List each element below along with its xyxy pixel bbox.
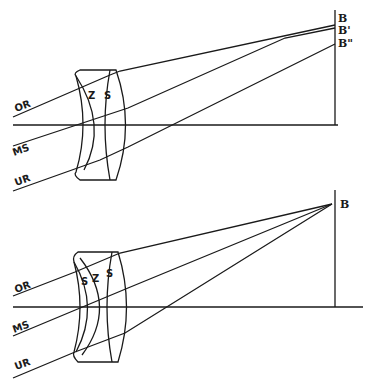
ray-ur (13, 204, 332, 378)
ray-or (13, 25, 335, 117)
label-or: OR (13, 279, 32, 295)
ray-ms (13, 28, 335, 146)
ray-or (13, 204, 332, 296)
label-ms: MS (11, 319, 31, 335)
lens-label-z: Z (92, 273, 99, 284)
image-label-b: B (340, 198, 349, 211)
ray-ms (13, 204, 332, 336)
label-ms: MS (11, 142, 31, 158)
image-label-b-prime: B' (338, 24, 351, 37)
lens-label-s: S (104, 90, 111, 101)
label-or: OR (13, 98, 32, 114)
lens-ray-diagrams: OR MS UR Z S B B' B" OR MS UR S Z S B (0, 0, 373, 384)
lens-label-z: Z (88, 90, 95, 101)
lens-label-s1: S (81, 276, 88, 287)
bottom-diagram: OR MS UR S Z S B (11, 190, 363, 378)
lens-label-s2: S (106, 268, 113, 279)
ray-ur (13, 44, 335, 191)
label-ur: UR (13, 356, 32, 372)
image-label-b-double-prime: B" (338, 37, 353, 50)
top-diagram: OR MS UR Z S B B' B" (11, 10, 353, 191)
